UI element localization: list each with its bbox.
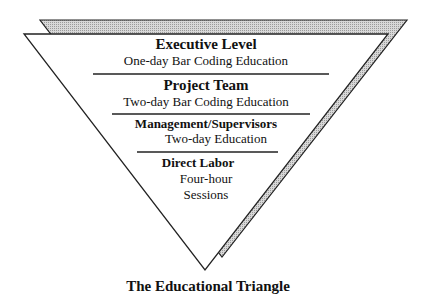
level-executive-title: Executive Level (0, 36, 412, 53)
level-project-team-title: Project Team (0, 77, 412, 94)
level-direct-labor-detail-1: Four-hour (0, 171, 412, 187)
level-direct-labor-title: Direct Labor (0, 155, 404, 171)
level-executive-detail: One-day Bar Coding Education (0, 53, 412, 69)
level-management-title: Management/Supervisors (0, 116, 412, 132)
diagram-caption: The Educational Triangle (2, 278, 414, 295)
level-project-team-detail: Two-day Bar Coding Education (0, 94, 412, 110)
level-management-detail: Two-day Education (10, 131, 422, 147)
level-direct-labor-detail-2: Sessions (0, 187, 412, 203)
